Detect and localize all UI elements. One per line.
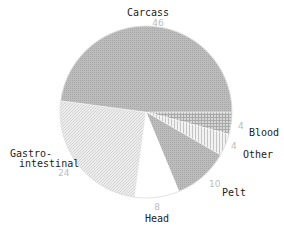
label-blood: Blood [249,127,279,138]
label-pelt: Pelt [222,187,246,198]
pie-slice-gastro-intestinal [60,101,146,197]
pie-chart: Carcass 46 4 Blood 4 Other 10 Pelt 8 Hea… [0,0,284,233]
pie-slice-carcass [61,26,232,112]
label-gastro-line2: intestinal [19,158,79,169]
label-carcass: Carcass [127,7,169,18]
value-blood: 4 [238,121,244,131]
value-gastro: 24 [58,168,70,178]
label-head: Head [145,213,169,224]
value-head: 8 [154,202,160,212]
pie-slices [60,26,232,198]
value-other: 4 [231,141,237,151]
value-carcass: 46 [152,18,164,28]
label-other: Other [243,149,273,160]
value-pelt: 10 [209,179,221,189]
